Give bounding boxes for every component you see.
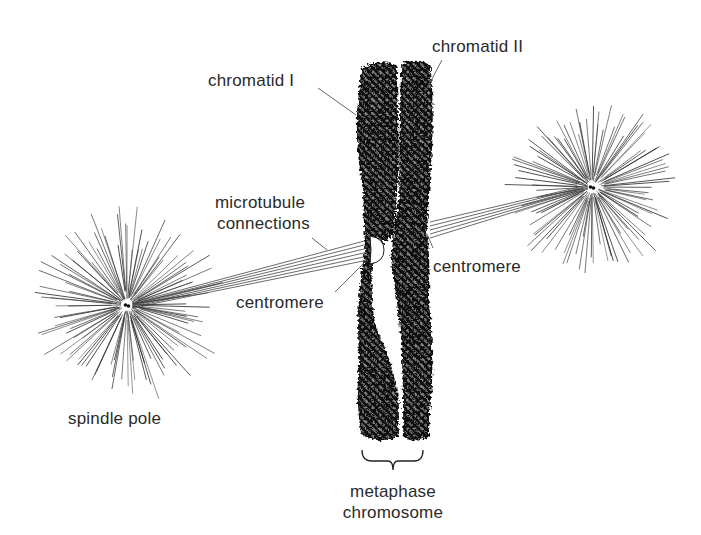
label-metaphase: metaphase bbox=[343, 482, 443, 501]
label-centromere-left: centromere bbox=[236, 293, 324, 312]
brace bbox=[362, 450, 423, 470]
chromatid-two bbox=[392, 61, 432, 440]
label-chromatid-one: chromatid I bbox=[208, 71, 294, 90]
label-microtubule: microtubule bbox=[215, 193, 305, 212]
label-centromere-right: centromere bbox=[433, 257, 521, 276]
left-spindle-pole bbox=[35, 207, 222, 399]
label-spindle-pole: spindle pole bbox=[68, 409, 161, 428]
label-chromosome: chromosome bbox=[333, 503, 453, 522]
microtubule-bundle-right bbox=[430, 185, 588, 238]
right-spindle-pole bbox=[505, 106, 675, 273]
chromosome-diagram bbox=[0, 0, 701, 535]
label-connections: connections bbox=[217, 214, 310, 233]
label-chromatid-two: chromatid II bbox=[432, 37, 523, 56]
